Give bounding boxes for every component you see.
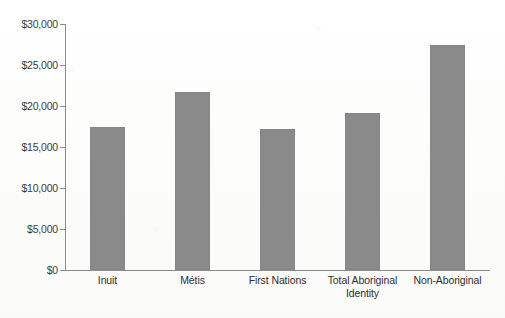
- bar: [90, 127, 125, 270]
- x-axis-category-label-line: Total Aboriginal: [320, 274, 405, 287]
- bar: [260, 129, 295, 270]
- x-axis-category-label: Total AboriginalIdentity: [320, 274, 405, 300]
- x-axis-category-label: First Nations: [235, 274, 320, 287]
- y-axis-tick-label: $10,000: [21, 182, 58, 194]
- y-axis-tick-label: $0: [47, 264, 58, 276]
- x-axis-line: [65, 270, 490, 271]
- x-axis-category-label: Non-Aboriginal: [405, 274, 490, 287]
- y-axis-tick-label: $5,000: [27, 223, 58, 235]
- y-axis-tick-label: $20,000: [21, 100, 58, 112]
- x-axis-category-label: Inuit: [65, 274, 150, 287]
- x-axis-category-labels: InuitMétisFirst NationsTotal AboriginalI…: [65, 274, 490, 314]
- y-axis-tick-label: $15,000: [21, 141, 58, 153]
- y-axis-tick: [60, 270, 65, 271]
- bar-chart: $0$5,000$10,000$15,000$20,000$25,000$30,…: [0, 0, 505, 318]
- bar: [430, 45, 465, 271]
- x-axis-category-label-line: Identity: [320, 287, 405, 300]
- bar-series: [65, 24, 490, 270]
- x-axis-category-label-line: First Nations: [235, 274, 320, 287]
- x-axis-category-label-line: Inuit: [65, 274, 150, 287]
- y-axis-tick-label: $30,000: [21, 18, 58, 30]
- y-axis-tick-label: $25,000: [21, 59, 58, 71]
- x-axis-category-label-line: Métis: [150, 274, 235, 287]
- bar: [345, 113, 380, 270]
- bar: [175, 92, 210, 270]
- x-axis-category-label-line: Non-Aboriginal: [405, 274, 490, 287]
- x-axis-category-label: Métis: [150, 274, 235, 287]
- plot-area: [65, 24, 490, 270]
- y-axis-tick-labels: $0$5,000$10,000$15,000$20,000$25,000$30,…: [0, 24, 58, 270]
